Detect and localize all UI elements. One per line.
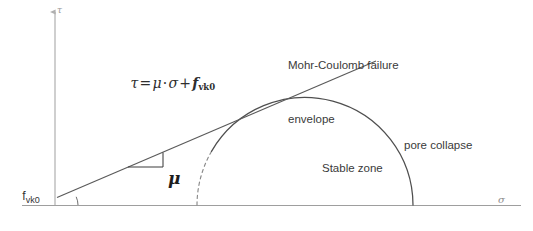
normal-stress-axis-label: σ — [498, 194, 505, 207]
shear-stress-axis-label: τ — [57, 5, 62, 16]
stable-zone-label: Stable zone — [322, 161, 383, 175]
equation-tau: τ — [131, 75, 139, 91]
pore-collapse-label: pore collapse — [404, 138, 472, 152]
failure-envelope-label-line2: envelope — [288, 110, 399, 128]
failure-envelope-label: Mohr-Coulomb failure envelope — [288, 20, 399, 164]
cohesion-intercept-label: fvk0 — [9, 174, 40, 221]
failure-envelope-label-line1: Mohr-Coulomb failure — [288, 56, 399, 74]
equation-f-subscript: vk0 — [198, 82, 215, 92]
cohesion-intercept-subscript: vk0 — [26, 195, 40, 205]
diagram-canvas — [0, 0, 533, 231]
equation-mu: μ — [153, 75, 162, 91]
equation-plus: + — [178, 75, 192, 91]
failure-criterion-equation: τ=μ·σ+fvk0 — [112, 57, 215, 110]
mohr-circle-dashed-arc — [197, 151, 212, 205]
equation-equals: = — [139, 75, 153, 91]
mohr-coulomb-figure: τ σ τ=μ·σ+fvk0 Mohr-Coulomb failure enve… — [0, 0, 533, 231]
envelope-angle-arc — [76, 197, 78, 205]
friction-coefficient-label: μ — [168, 168, 180, 189]
equation-sigma: σ — [168, 75, 178, 91]
